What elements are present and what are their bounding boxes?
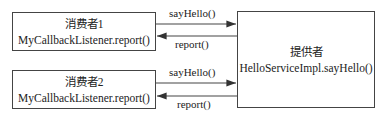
provider-box: 提供者 HelloServiceImpl.sayHello() [237,11,375,108]
consumer-2-box: 消费者2 MyCallbackListener.report() [12,70,156,109]
consumer-1-title: 消费者1 [65,16,104,32]
provider-method: HelloServiceImpl.sayHello() [239,60,372,76]
consumer-1-box: 消费者1 MyCallbackListener.report() [12,12,156,51]
arrow-label-sayhello-1: sayHello() [169,7,215,19]
consumer-1-method: MyCallbackListener.report() [18,32,150,48]
arrow-label-sayhello-2: sayHello() [169,66,215,78]
arrow-label-report-1: report() [175,38,209,50]
consumer-2-title: 消费者2 [65,74,104,90]
provider-title: 提供者 [290,44,323,60]
consumer-2-method: MyCallbackListener.report() [18,90,150,106]
arrow-label-report-2: report() [177,98,211,110]
